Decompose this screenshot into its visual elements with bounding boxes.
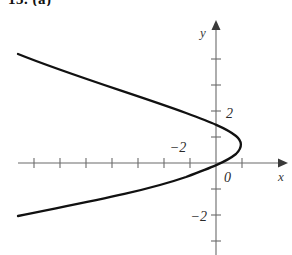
- y-tick-label-negative-2: −2: [191, 209, 207, 224]
- figure-root: 15. (a): [0, 0, 292, 255]
- parabola-curve: [18, 54, 241, 216]
- x-tick-label-negative-2: −2: [170, 140, 186, 155]
- x-axis-label: x: [277, 169, 284, 184]
- y-axis-label: y: [198, 25, 206, 40]
- origin-label: 0: [224, 170, 231, 185]
- parabola-plot: y x 2 0 −2 −2: [0, 0, 292, 255]
- y-tick-label-2: 2: [226, 106, 233, 121]
- x-axis-arrow-icon: [278, 159, 288, 168]
- y-axis-arrow-icon: [212, 20, 221, 30]
